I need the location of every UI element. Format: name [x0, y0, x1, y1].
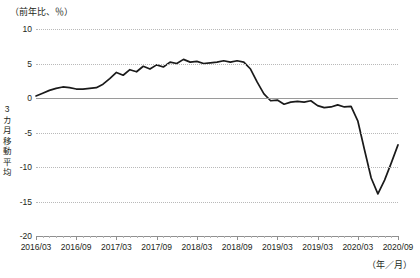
- x-tick-minor: [271, 236, 272, 238]
- x-tick-major: [116, 236, 117, 240]
- x-tick-major: [157, 236, 158, 240]
- x-tick-minor: [251, 236, 252, 238]
- gridline: [36, 167, 398, 168]
- gridline: [36, 98, 398, 99]
- x-tick-minor: [217, 236, 218, 238]
- x-tick-major: [398, 236, 399, 240]
- x-tick-minor: [371, 236, 372, 238]
- x-tick-minor: [391, 236, 392, 238]
- x-tick-minor: [338, 236, 339, 238]
- x-tick-minor: [56, 236, 57, 238]
- x-tick-minor: [210, 236, 211, 238]
- y-tick-label: 5: [6, 59, 32, 69]
- x-tick-major: [76, 236, 77, 240]
- x-tick-minor: [230, 236, 231, 238]
- gridline: [36, 202, 398, 203]
- x-tick-minor: [110, 236, 111, 238]
- x-tick-label: 2020/09: [372, 242, 420, 252]
- y-tick-label: 0: [6, 93, 32, 103]
- x-tick-minor: [177, 236, 178, 238]
- x-tick-minor: [137, 236, 138, 238]
- series-line-3month-moving-average: [36, 59, 398, 194]
- x-tick-minor: [150, 236, 151, 238]
- y-axis-title-char: 動: [1, 146, 13, 157]
- x-axis-title: （年／月）: [367, 258, 412, 271]
- x-tick-minor: [204, 236, 205, 238]
- gridline: [36, 29, 398, 30]
- x-tick-minor: [351, 236, 352, 238]
- x-tick-minor: [70, 236, 71, 238]
- x-tick-minor: [324, 236, 325, 238]
- x-tick-minor: [224, 236, 225, 238]
- x-tick-minor: [43, 236, 44, 238]
- x-tick-minor: [297, 236, 298, 238]
- x-tick-minor: [264, 236, 265, 238]
- x-tick-minor: [143, 236, 144, 238]
- x-tick-major: [277, 236, 278, 240]
- x-tick-major: [358, 236, 359, 240]
- x-tick-minor: [385, 236, 386, 238]
- x-tick-minor: [284, 236, 285, 238]
- x-tick-minor: [170, 236, 171, 238]
- y-axis-title-char: 3: [1, 104, 13, 115]
- x-tick-major: [237, 236, 238, 240]
- chart-container: （前年比、％） 3カ月移動平均 （年／月） 1050-5-10-15-20201…: [0, 0, 420, 278]
- x-tick-minor: [331, 236, 332, 238]
- x-tick-minor: [96, 236, 97, 238]
- x-tick-minor: [163, 236, 164, 238]
- y-tick-label: -20: [6, 231, 32, 241]
- x-tick-major: [197, 236, 198, 240]
- y-tick-label: -10: [6, 162, 32, 172]
- x-tick-major: [318, 236, 319, 240]
- x-tick-minor: [183, 236, 184, 238]
- x-tick-minor: [123, 236, 124, 238]
- x-tick-minor: [311, 236, 312, 238]
- x-tick-minor: [291, 236, 292, 238]
- gridline: [36, 133, 398, 134]
- y-tick-label: 10: [6, 24, 32, 34]
- x-tick-minor: [378, 236, 379, 238]
- x-tick-minor: [49, 236, 50, 238]
- x-tick-minor: [364, 236, 365, 238]
- x-tick-minor: [344, 236, 345, 238]
- unit-caption: （前年比、％）: [10, 5, 73, 18]
- y-axis-title-char: カ: [1, 115, 13, 126]
- x-tick-major: [36, 236, 37, 240]
- x-tick-minor: [63, 236, 64, 238]
- y-tick-label: -5: [6, 128, 32, 138]
- x-tick-minor: [244, 236, 245, 238]
- x-tick-minor: [257, 236, 258, 238]
- x-tick-minor: [103, 236, 104, 238]
- plot-area: [36, 29, 398, 236]
- x-tick-minor: [304, 236, 305, 238]
- x-tick-minor: [83, 236, 84, 238]
- y-tick-label: -15: [6, 197, 32, 207]
- x-tick-minor: [190, 236, 191, 238]
- x-tick-minor: [90, 236, 91, 238]
- x-tick-minor: [130, 236, 131, 238]
- gridline: [36, 64, 398, 65]
